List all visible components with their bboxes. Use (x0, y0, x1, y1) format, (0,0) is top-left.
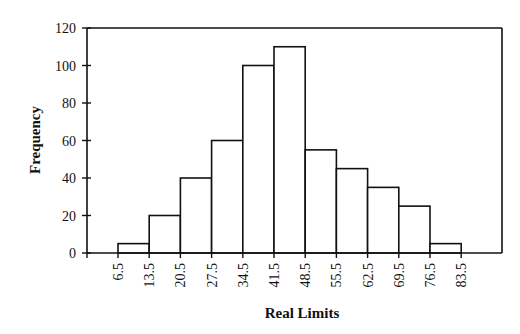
x-axis: 6.513.520.527.534.541.548.555.562.569.57… (87, 253, 502, 288)
x-tick-label: 69.5 (392, 263, 407, 288)
histogram-bar (149, 216, 180, 254)
x-tick-label: 76.5 (423, 263, 438, 288)
x-tick-label: 13.5 (142, 263, 157, 288)
y-tick-label: 40 (62, 171, 76, 186)
plot-area (87, 28, 502, 253)
x-tick-label: 6.5 (111, 263, 126, 281)
x-tick-label: 34.5 (236, 263, 251, 288)
histogram-bar (180, 178, 211, 253)
y-axis: 020406080100120 (55, 21, 91, 261)
histogram-bar (118, 244, 149, 253)
histogram-bar (430, 244, 461, 253)
histogram-bar (368, 187, 399, 253)
histogram-chart: 020406080100120 6.513.520.527.534.541.54… (0, 0, 520, 334)
y-tick-label: 80 (62, 96, 76, 111)
y-tick-label: 20 (62, 209, 76, 224)
x-tick-label: 20.5 (173, 263, 188, 288)
y-axis-title: Frequency (27, 105, 43, 174)
x-axis-title: Real Limits (265, 305, 340, 321)
y-tick-label: 60 (62, 134, 76, 149)
histogram-bar (274, 47, 305, 253)
x-tick-label: 48.5 (298, 263, 313, 288)
x-tick-label: 83.5 (454, 263, 469, 288)
histogram-bar (243, 66, 274, 254)
histogram-bar (212, 141, 243, 254)
x-tick-label: 62.5 (361, 263, 376, 288)
x-tick-label: 41.5 (267, 263, 282, 288)
y-tick-label: 120 (55, 21, 76, 36)
x-tick-label: 27.5 (205, 263, 220, 288)
x-tick-label: 55.5 (329, 263, 344, 288)
y-tick-label: 0 (69, 246, 76, 261)
y-tick-label: 100 (55, 59, 76, 74)
histogram-bar (305, 150, 336, 253)
histogram-bar (399, 206, 430, 253)
histogram-bar (336, 169, 367, 253)
